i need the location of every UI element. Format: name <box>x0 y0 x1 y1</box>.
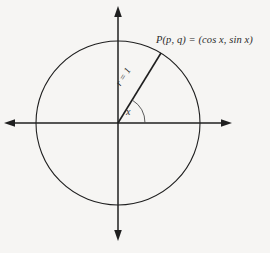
angle-arc <box>132 100 145 123</box>
x-axis-right-arrowhead <box>221 119 232 127</box>
point-p-label-text: P(p, q) = (cos x, sin x) <box>156 34 253 45</box>
point-p-label: P(p, q) = (cos x, sin x) <box>156 34 253 45</box>
angle-x-label-text: x <box>126 106 130 117</box>
radius-segment <box>118 53 161 123</box>
angle-x-label: x <box>126 106 130 117</box>
y-axis-top-arrowhead <box>114 6 122 17</box>
x-axis-left-arrowhead <box>4 119 15 127</box>
unit-circle-figure: P(p, q) = (cos x, sin x) r = 1 x <box>0 0 270 253</box>
y-axis-bottom-arrowhead <box>114 230 122 241</box>
